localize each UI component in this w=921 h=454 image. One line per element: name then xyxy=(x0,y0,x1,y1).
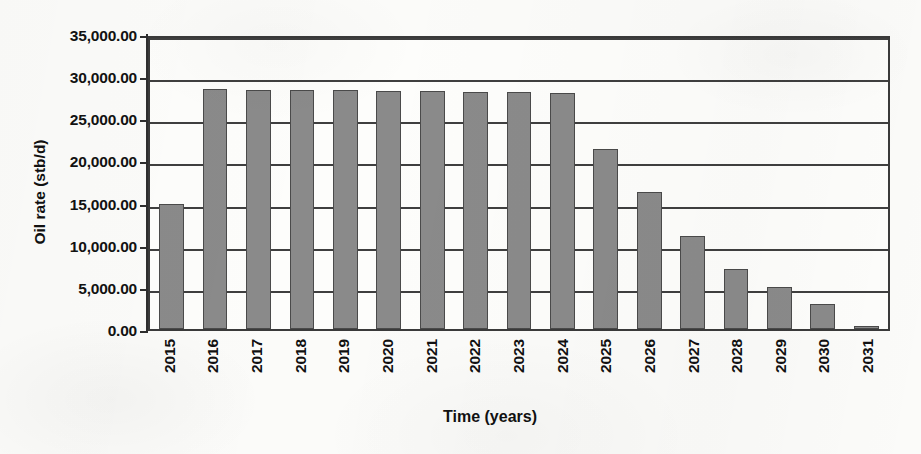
x-slot: 2022 xyxy=(453,333,497,403)
x-slot: 2026 xyxy=(628,333,672,403)
x-tick-label: 2029 xyxy=(772,339,790,373)
bar-slot xyxy=(584,38,627,329)
y-tick-label: 5,000.00 xyxy=(37,281,137,297)
x-slot: 2027 xyxy=(672,333,716,403)
y-axis-title: Oil rate (stb/d) xyxy=(31,92,49,292)
bar-series xyxy=(150,38,888,329)
x-slot: 2023 xyxy=(497,333,541,403)
x-tick-label: 2024 xyxy=(554,339,572,373)
y-tick-label: 25,000.00 xyxy=(37,112,137,128)
x-tick-label: 2022 xyxy=(466,339,484,373)
bar-slot xyxy=(671,38,714,329)
x-slot: 2028 xyxy=(715,333,759,403)
x-tick-label: 2017 xyxy=(248,339,266,373)
bar xyxy=(290,90,315,329)
y-tick-label: 20,000.00 xyxy=(37,154,137,170)
y-tick-label: 0.00 xyxy=(37,323,137,339)
bar xyxy=(159,204,184,329)
bar xyxy=(507,92,532,329)
bar xyxy=(376,91,401,329)
x-slot: 2017 xyxy=(235,333,279,403)
bar-slot xyxy=(150,38,193,329)
bar-slot xyxy=(714,38,757,329)
x-tick-label: 2020 xyxy=(379,339,397,373)
x-tick-label: 2025 xyxy=(597,339,615,373)
bar xyxy=(550,93,575,329)
y-tick-mark xyxy=(140,331,147,333)
bar xyxy=(637,192,662,329)
x-slot: 2021 xyxy=(410,333,454,403)
plot-area xyxy=(148,36,890,331)
x-slot: 2029 xyxy=(759,333,803,403)
bar xyxy=(246,90,271,329)
bar-slot xyxy=(627,38,670,329)
x-tick-label: 2026 xyxy=(641,339,659,373)
y-tick-mark xyxy=(140,162,147,164)
y-tick-label: 30,000.00 xyxy=(37,70,137,86)
x-slot: 2025 xyxy=(584,333,628,403)
x-tick-label: 2030 xyxy=(815,339,833,373)
x-tick-label: 2023 xyxy=(510,339,528,373)
x-tick-label: 2031 xyxy=(859,339,877,373)
bar-slot xyxy=(758,38,801,329)
bar-slot xyxy=(193,38,236,329)
bar-slot xyxy=(280,38,323,329)
x-slot: 2031 xyxy=(846,333,890,403)
x-axis-title: Time (years) xyxy=(350,408,630,426)
bar-slot xyxy=(367,38,410,329)
x-tick-label: 2015 xyxy=(161,339,179,373)
x-tick-label: 2016 xyxy=(204,339,222,373)
bar xyxy=(333,90,358,329)
y-tick-mark xyxy=(140,78,147,80)
bar xyxy=(724,269,749,329)
x-tick-label: 2019 xyxy=(335,339,353,373)
y-tick-mark xyxy=(140,247,147,249)
bar xyxy=(203,89,228,329)
x-slot: 2015 xyxy=(148,333,192,403)
bar xyxy=(680,236,705,329)
bar-slot xyxy=(324,38,367,329)
x-slot: 2020 xyxy=(366,333,410,403)
bar-slot xyxy=(454,38,497,329)
bar xyxy=(593,149,618,329)
bar xyxy=(463,92,488,329)
x-tick-label: 2028 xyxy=(728,339,746,373)
y-tick-label: 10,000.00 xyxy=(37,239,137,255)
bar-slot xyxy=(845,38,888,329)
bar xyxy=(854,326,879,329)
y-tick-mark xyxy=(140,289,147,291)
y-tick-mark xyxy=(140,205,147,207)
x-slot: 2024 xyxy=(541,333,585,403)
y-axis-tick-group: 0.005,000.0010,000.0015,000.0020,000.002… xyxy=(0,0,137,454)
x-axis-tick-group: 2015201620172018201920202021202220232024… xyxy=(148,333,890,403)
x-slot: 2016 xyxy=(192,333,236,403)
y-tick-label: 15,000.00 xyxy=(37,197,137,213)
y-tick-mark xyxy=(140,120,147,122)
bar-slot xyxy=(801,38,844,329)
x-slot: 2019 xyxy=(323,333,367,403)
bar-slot xyxy=(410,38,453,329)
x-tick-label: 2027 xyxy=(685,339,703,373)
bar-slot xyxy=(541,38,584,329)
x-slot: 2018 xyxy=(279,333,323,403)
bar xyxy=(420,91,445,329)
y-tick-mark xyxy=(140,36,147,38)
bar xyxy=(767,287,792,329)
y-tick-label: 35,000.00 xyxy=(37,28,137,44)
bar-slot xyxy=(237,38,280,329)
x-tick-label: 2021 xyxy=(423,339,441,373)
chart-figure: 0.005,000.0010,000.0015,000.0020,000.002… xyxy=(0,0,921,454)
x-slot: 2030 xyxy=(803,333,847,403)
bar-slot xyxy=(497,38,540,329)
bar xyxy=(810,304,835,329)
x-tick-label: 2018 xyxy=(292,339,310,373)
